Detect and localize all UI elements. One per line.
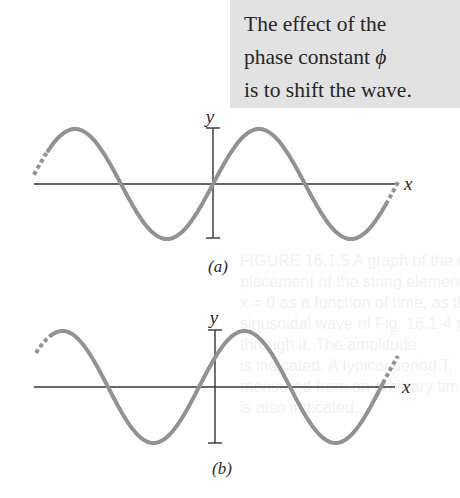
figure-a: y x (a)	[34, 106, 413, 276]
wave-dashed-left	[34, 151, 48, 175]
y-axis-label: y	[208, 307, 219, 328]
wave-diagrams: y x (a) y x (b)	[0, 0, 460, 498]
figure-caption-b: (b)	[212, 459, 232, 478]
figure-caption-a: (a)	[208, 257, 228, 276]
x-axis-label: x	[401, 376, 411, 397]
wave-dashed-right	[386, 182, 398, 204]
figure-b: y x (b)	[34, 307, 411, 478]
x-axis-label: x	[403, 173, 413, 194]
y-axis-label: y	[204, 106, 215, 127]
wave-dashed-left	[36, 335, 52, 353]
wave-dashed-right	[383, 356, 398, 383]
